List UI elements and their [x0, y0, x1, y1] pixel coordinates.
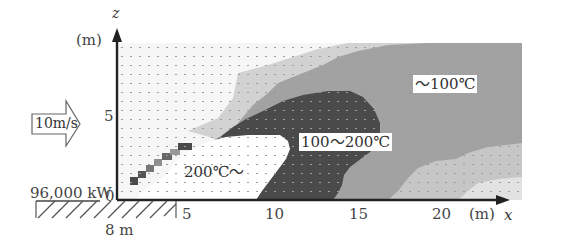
- region-label-mid-temp: 100〜200℃: [299, 133, 392, 151]
- x-tick-20: 20: [432, 206, 451, 222]
- region-label-low-temp: 〜100℃: [413, 75, 477, 93]
- fire-width-label: 8 m: [105, 222, 134, 238]
- z-axis-unit: (m): [76, 32, 102, 48]
- x-axis-name: x: [504, 206, 512, 224]
- z-axis-arrow-icon: [112, 28, 122, 42]
- x-tick-10: 10: [265, 206, 284, 222]
- z-tick-5: 5: [104, 108, 114, 124]
- region-label-high-temp: 200℃〜: [182, 163, 246, 181]
- z-axis-name: z: [112, 5, 119, 21]
- wind-speed-label: 10m/s: [35, 114, 78, 133]
- fire-power-label: 96,000 kW: [30, 185, 112, 201]
- x-tick-15: 15: [349, 206, 368, 222]
- x-axis-unit: (m): [469, 206, 495, 222]
- x-tick-5: 5: [182, 206, 192, 222]
- x-axis-arrow-icon: [496, 195, 510, 205]
